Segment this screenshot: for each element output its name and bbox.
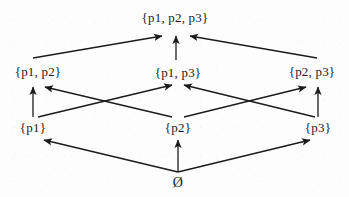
node-label-p2: {p2}	[165, 120, 191, 136]
edge-p2-to-p2p3	[184, 87, 306, 117]
node-label-p3: {p3}	[305, 120, 331, 136]
node-label-p1-p2: {p1, p2}	[15, 64, 62, 80]
edge-p1p2-to-top	[33, 36, 162, 58]
edge-empty-to-p3	[178, 140, 310, 172]
node-label-full-set: {p1, p2, p3}	[142, 10, 209, 26]
node-label-p1: {p1}	[20, 120, 46, 136]
node-label-p1-p3: {p1, p3}	[155, 65, 202, 81]
edge-p2-to-p1p2	[45, 87, 172, 117]
edge-empty-to-p1	[44, 140, 178, 172]
edge-p2p3-to-top	[190, 36, 317, 58]
node-label-p2-p3: {p2, p3}	[289, 64, 336, 80]
node-label-empty-set: Ø	[173, 175, 183, 191]
diagram-canvas: {p1, p2, p3} {p1, p2} {p1, p3} {p2, p3} …	[0, 0, 349, 197]
hasse-diagram-graphic	[0, 0, 349, 197]
